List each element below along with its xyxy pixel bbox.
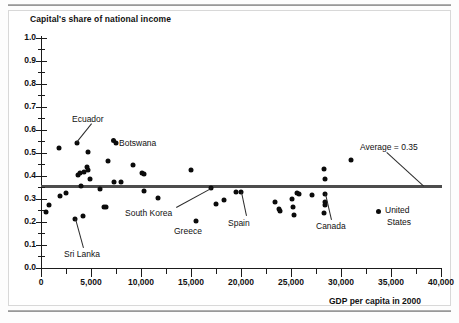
x-axis-tick bbox=[141, 268, 142, 277]
y-axis-tick bbox=[36, 61, 47, 62]
y-axis-tick bbox=[36, 84, 47, 85]
annotation-sri-lanka: Sri Lanka bbox=[64, 249, 100, 259]
botswana-marker bbox=[111, 138, 116, 143]
y-axis-minor-tick bbox=[38, 164, 45, 165]
annotation-leader-line bbox=[386, 152, 424, 186]
y-axis-minor-tick bbox=[38, 187, 45, 188]
annotation-canada: Canada bbox=[316, 221, 346, 231]
y-axis-tick-label: 0.6 bbox=[10, 124, 36, 134]
annotation-leader-line bbox=[76, 123, 92, 142]
x-axis-tick-label: 10,000 bbox=[128, 277, 154, 287]
data-point-greece bbox=[194, 218, 199, 223]
data-point bbox=[112, 179, 117, 184]
y-axis-tick bbox=[36, 130, 47, 131]
data-point bbox=[47, 202, 52, 207]
y-axis-tick-label: 0.5 bbox=[10, 147, 36, 157]
x-axis-tick bbox=[391, 268, 392, 277]
x-axis-minor-tick bbox=[66, 268, 67, 274]
x-axis-title: GDP per capita in 2000 bbox=[329, 296, 421, 306]
data-point bbox=[64, 191, 69, 196]
x-axis-minor-tick bbox=[116, 268, 117, 274]
y-axis-tick-label: 0.9 bbox=[10, 55, 36, 65]
data-point bbox=[273, 199, 278, 204]
y-axis-tick bbox=[36, 107, 47, 108]
data-point bbox=[119, 179, 124, 184]
x-axis-minor-tick bbox=[416, 268, 417, 274]
x-axis-tick-label: 35,000 bbox=[378, 277, 404, 287]
annotation-botswana: Botswana bbox=[119, 138, 156, 148]
y-axis-minor-tick bbox=[38, 256, 45, 257]
data-point bbox=[156, 195, 161, 200]
y-axis-tick-label: 1.0 bbox=[10, 32, 36, 42]
x-axis-tick-label: 20,000 bbox=[228, 277, 254, 287]
data-point bbox=[88, 176, 93, 181]
x-axis-tick bbox=[291, 268, 292, 277]
data-point bbox=[85, 168, 90, 173]
x-axis-tick-label: 15,000 bbox=[178, 277, 204, 287]
data-point bbox=[142, 188, 147, 193]
y-axis-tick-label: 0.0 bbox=[10, 262, 36, 272]
y-axis-tick-label: 0.4 bbox=[10, 170, 36, 180]
x-axis-minor-tick bbox=[366, 268, 367, 274]
annotation-ecuador: Ecuador bbox=[72, 114, 104, 124]
y-axis-minor-tick bbox=[38, 118, 45, 119]
y-axis-tick bbox=[36, 38, 47, 39]
data-point bbox=[103, 205, 108, 210]
data-point bbox=[214, 201, 219, 206]
y-axis-tick-label: 0.1 bbox=[10, 239, 36, 249]
data-point bbox=[310, 192, 315, 197]
data-point bbox=[86, 150, 91, 155]
x-axis-tick bbox=[441, 268, 442, 277]
y-axis-tick bbox=[36, 153, 47, 154]
annotation-leader-line bbox=[176, 188, 211, 208]
annotation-average: Average = 0.35 bbox=[360, 142, 418, 152]
y-axis-tick bbox=[36, 176, 47, 177]
y-axis-tick-label: 0.3 bbox=[10, 193, 36, 203]
figure-page: Capital's share of national income 0.00.… bbox=[0, 0, 459, 323]
y-axis-tick bbox=[36, 222, 47, 223]
x-axis-tick bbox=[241, 268, 242, 277]
data-point bbox=[322, 167, 327, 172]
x-axis-tick-label: 25,000 bbox=[278, 277, 304, 287]
data-point bbox=[292, 213, 297, 218]
x-axis-tick-label: 40,000 bbox=[428, 277, 454, 287]
annotation-states: States bbox=[387, 217, 411, 227]
annotation-greece: Greece bbox=[174, 226, 202, 236]
data-point bbox=[322, 210, 327, 215]
x-axis-minor-tick bbox=[316, 268, 317, 274]
x-axis-tick-label: 30,000 bbox=[328, 277, 354, 287]
y-axis-tick-label: 0.2 bbox=[10, 216, 36, 226]
y-axis-minor-tick bbox=[38, 95, 45, 96]
united-states-marker bbox=[376, 209, 381, 214]
data-point bbox=[142, 172, 147, 177]
y-axis-minor-tick bbox=[38, 72, 45, 73]
y-axis-tick bbox=[36, 245, 47, 246]
annotation-spain: Spain bbox=[228, 218, 250, 228]
annotation-leader-line bbox=[325, 194, 332, 220]
y-axis-minor-tick bbox=[38, 233, 45, 234]
data-point bbox=[290, 197, 295, 202]
x-axis-minor-tick bbox=[166, 268, 167, 274]
data-point bbox=[81, 214, 86, 219]
y-axis-tick bbox=[36, 199, 47, 200]
data-point bbox=[323, 176, 328, 181]
x-axis-tick-label: 5,000 bbox=[80, 277, 101, 287]
data-point bbox=[98, 186, 103, 191]
annotation-leader-line bbox=[75, 219, 84, 248]
x-axis-minor-tick bbox=[216, 268, 217, 274]
data-point bbox=[57, 145, 62, 150]
y-axis-minor-tick bbox=[38, 49, 45, 50]
annotation-united: United bbox=[385, 205, 410, 215]
data-point bbox=[106, 158, 111, 163]
annotation-leader-line bbox=[241, 192, 247, 216]
x-axis-tick-label: 0 bbox=[39, 277, 44, 287]
x-axis-tick bbox=[41, 268, 42, 277]
y-axis-minor-tick bbox=[38, 141, 45, 142]
y-axis-tick-label: 0.8 bbox=[10, 78, 36, 88]
data-point bbox=[291, 205, 296, 210]
scatter-plot: 0.00.10.20.30.40.50.60.70.80.91.005,0001… bbox=[0, 0, 459, 323]
annotation-south-korea: South Korea bbox=[125, 208, 172, 218]
data-point bbox=[189, 168, 194, 173]
data-point bbox=[79, 184, 84, 189]
data-point bbox=[58, 194, 63, 199]
